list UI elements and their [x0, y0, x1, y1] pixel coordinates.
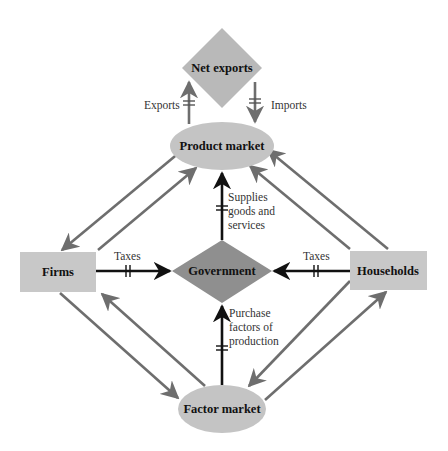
flow-households-to-product-outer [268, 150, 388, 249]
label-exports: Exports [144, 99, 180, 112]
circular-flow-diagram: Net exports Product market Firms Governm… [0, 0, 448, 451]
label-imports: Imports [271, 99, 307, 112]
svg-text:Factor market: Factor market [183, 402, 261, 416]
label-taxes-firms: Taxes [114, 250, 141, 262]
node-net-exports: Net exports [182, 28, 262, 108]
label-purchase-1: Purchase [229, 307, 271, 319]
flow-factor-to-firms [102, 294, 205, 386]
node-households: Households [350, 251, 427, 290]
label-supplies-1: Supplies [228, 191, 268, 204]
label-purchase-2: factors of [229, 321, 273, 333]
flow-product-to-firms [62, 152, 180, 250]
svg-text:Government: Government [188, 264, 256, 278]
label-taxes-households: Taxes [303, 250, 330, 262]
label-purchase-3: production [229, 335, 279, 348]
svg-text:Households: Households [357, 264, 419, 278]
svg-text:Firms: Firms [42, 265, 74, 279]
label-supplies-3: services [228, 219, 266, 231]
node-factor-market: Factor market [178, 385, 266, 433]
svg-text:Net exports: Net exports [191, 61, 253, 75]
node-product-market: Product market [170, 122, 274, 170]
label-supplies-2: goods and [228, 205, 275, 218]
node-firms: Firms [20, 252, 96, 292]
svg-text:Product market: Product market [180, 139, 266, 153]
node-government: Government [172, 240, 272, 303]
